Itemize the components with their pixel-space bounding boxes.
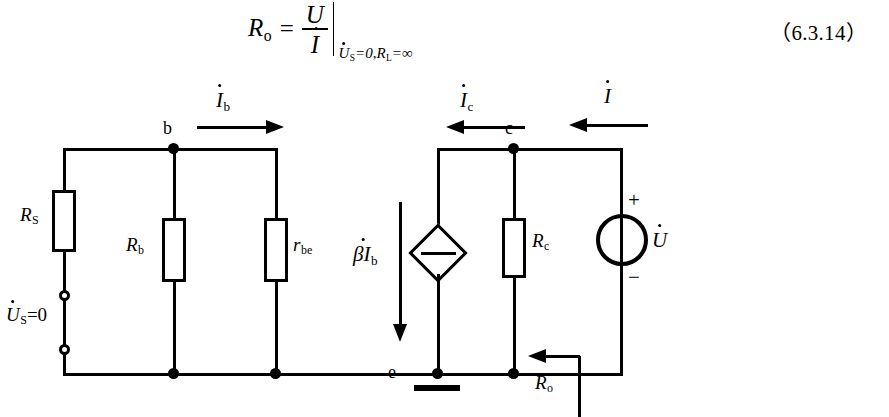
node-c <box>508 143 519 154</box>
label-rb: Rb <box>126 234 144 258</box>
equation-fraction: U I <box>302 2 328 57</box>
node-rbe-bottom <box>270 368 281 379</box>
wire-rs-top <box>63 148 66 192</box>
node-label-e: e <box>388 362 396 383</box>
wire-source-gap <box>63 300 66 346</box>
dependent-source-bar <box>421 252 456 255</box>
ground-symbol <box>414 385 460 391</box>
arrow-head-ic <box>446 120 464 134</box>
arrow-head-ib <box>266 120 284 134</box>
arrow-shaft-ic <box>463 126 525 129</box>
wire-rs-bottom <box>63 250 66 292</box>
wire-vsrc-bottom <box>620 238 623 376</box>
node-rb-bottom <box>168 368 179 379</box>
resistor-rb <box>162 218 186 282</box>
arrow-head-ro <box>528 349 546 363</box>
wire-depsrc-top <box>437 148 440 232</box>
arrow-head-i <box>569 118 587 132</box>
label-rs: RS <box>20 204 39 228</box>
equation-denominator: I <box>311 32 319 57</box>
arrow-shaft-beta-ib <box>399 202 402 328</box>
wire-ro-pointer <box>578 356 581 417</box>
node-label-b: b <box>163 118 172 139</box>
equation-numerator: U <box>306 2 324 27</box>
label-current-ic: Ic <box>460 88 473 115</box>
node-e <box>432 368 443 379</box>
label-current-ib: Ib <box>216 88 230 115</box>
label-current-i: I <box>604 84 611 109</box>
wire-source-to-rail <box>63 353 66 375</box>
resistor-rs <box>52 190 76 252</box>
figure-page: Ro = U I US=0,RL=∞ （6.3.14） <box>0 0 889 417</box>
wire-top-right <box>437 148 621 151</box>
wire-rb-top <box>173 148 176 220</box>
wire-rbe-top <box>275 148 278 220</box>
arrow-shaft-ib <box>197 126 269 129</box>
label-source-plus: + <box>628 190 640 211</box>
label-ro: Ro <box>535 372 553 396</box>
equation-number: （6.3.14） <box>770 16 867 46</box>
circuit-diagram: US=0 RS Rb b rbe Ib e βIb <box>0 62 889 417</box>
evaluation-bar <box>333 2 335 56</box>
resistor-rbe <box>264 218 288 282</box>
equation-equals: = <box>280 15 294 43</box>
node-b <box>168 143 179 154</box>
label-voltage-source: U <box>652 228 667 253</box>
equation-row: Ro = U I US=0,RL=∞ （6.3.14） <box>0 0 889 62</box>
label-source-voltage: US=0 <box>6 304 47 328</box>
wire-rc-top <box>513 148 516 220</box>
wire-depsrc-bottom <box>437 274 440 376</box>
label-rbe: rbe <box>293 234 312 258</box>
arrow-shaft-i <box>586 124 648 127</box>
wire-rbe-bottom <box>275 280 278 376</box>
wire-rb-bottom <box>173 280 176 376</box>
equation-lhs: Ro <box>248 14 272 44</box>
resistor-rc <box>502 218 526 278</box>
wire-rc-bottom <box>513 276 516 376</box>
node-rc-bottom <box>508 368 519 379</box>
label-source-minus: − <box>628 267 640 288</box>
arrow-head-beta-ib <box>393 324 407 342</box>
label-beta-ib: βIb <box>353 242 378 269</box>
label-rc: Rc <box>532 230 549 254</box>
arrow-shaft-ro <box>545 355 580 358</box>
equation-expression: Ro = U I US=0,RL=∞ <box>248 2 413 57</box>
equation-condition: US=0,RL=∞ <box>338 45 412 63</box>
